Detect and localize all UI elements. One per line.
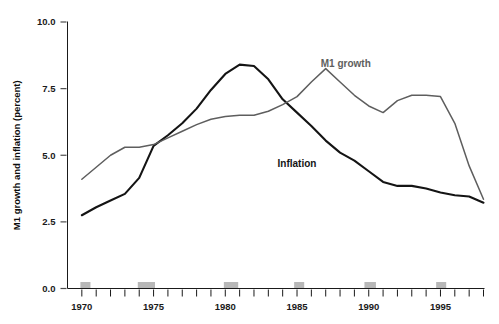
chart-background [0,0,499,324]
x-tick-label-1970: 1970 [71,301,92,312]
x-tick-label-1980: 1980 [215,301,236,312]
x-tick-label-1995: 1995 [430,301,452,312]
x-tick-label-1985: 1985 [286,301,308,312]
y-tick-label-5.0: 5.0 [42,150,55,161]
recession-bar-5 [364,282,375,289]
series-label-inflation: Inflation [278,158,317,169]
recession-bar-2 [138,282,155,289]
line-chart: 0.02.55.07.510.0 19701975198019851990199… [0,0,499,324]
y-tick-label-7.5: 7.5 [42,83,56,94]
recession-bar-3 [224,282,238,289]
y-tick-label-0.0: 0.0 [42,283,55,294]
y-axis-title: M1 growth and inflation (percent) [11,80,22,230]
recession-bar-6 [436,282,446,289]
x-tick-label-1990: 1990 [358,301,379,312]
recession-bar-1 [80,282,90,289]
series-label-m1-growth: M1 growth [321,58,371,69]
chart-figure: 0.02.55.07.510.0 19701975198019851990199… [0,0,499,324]
x-tick-label-1975: 1975 [143,301,165,312]
y-tick-label-10.0: 10.0 [37,16,56,27]
recession-bar-4 [294,282,304,289]
y-tick-label-2.5: 2.5 [42,216,56,227]
